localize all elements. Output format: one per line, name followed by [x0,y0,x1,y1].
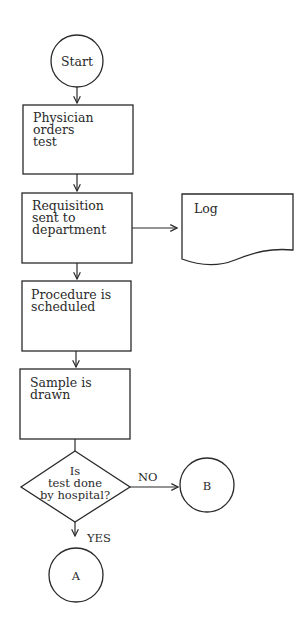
sample-drawn-box: Sample is drawn [20,369,130,439]
connector-a: A [49,548,103,602]
physician-orders-test-box: Physician orders test [23,105,133,174]
procedure-line-2: scheduled [31,299,95,314]
start-label: Start [61,54,93,69]
start-node: Start [51,35,103,87]
flowchart-canvas: Start Physician orders test Requisition … [0,0,304,630]
no-label: NO [138,470,158,484]
yes-label: YES [86,531,111,545]
connector-b-label: B [203,479,211,493]
sample-line-2: drawn [30,387,70,402]
connector-b: B [180,458,234,512]
decision-line-3: by hospital? [40,488,110,502]
requisition-line-3: department [32,222,106,237]
physician-line-3: test [33,134,57,149]
requisition-box: Requisition sent to department [22,193,132,263]
connector-a-label: A [71,569,81,583]
decision-diamond: Is test done by hospital? [21,451,130,522]
procedure-scheduled-box: Procedure is scheduled [22,281,131,351]
log-document: Log [182,194,293,265]
log-label: Log [194,201,218,216]
